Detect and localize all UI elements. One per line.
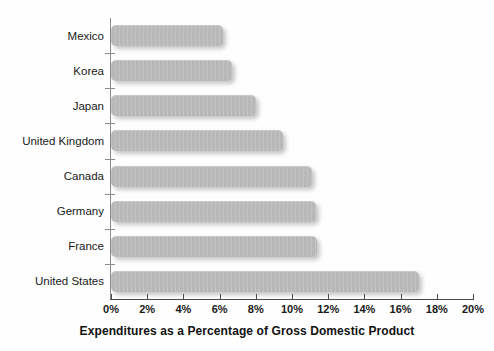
y-tick-mark <box>105 53 115 54</box>
y-tick-mark <box>105 123 115 124</box>
x-tick-mark <box>401 294 402 300</box>
x-tick-label: 2% <box>127 303 167 315</box>
x-tick-label: 18% <box>417 303 457 315</box>
x-tick-mark <box>147 294 148 300</box>
y-tick-mark <box>105 194 115 195</box>
x-tick-label: 12% <box>308 303 348 315</box>
value-axis-ticks: 0%2%4%6%8%10%12%14%16%18%20% <box>0 0 494 351</box>
x-tick-label: 8% <box>236 303 276 315</box>
x-axis-title: Expenditures as a Percentage of Gross Do… <box>0 324 494 338</box>
x-tick-mark <box>364 294 365 300</box>
x-tick-label: 10% <box>272 303 312 315</box>
x-tick-label: 4% <box>163 303 203 315</box>
y-tick-mark <box>105 264 115 265</box>
y-tick-mark <box>105 159 115 160</box>
x-tick-label: 0% <box>91 303 131 315</box>
y-tick-mark <box>105 229 115 230</box>
x-tick-mark <box>292 294 293 300</box>
x-tick-label: 20% <box>453 303 493 315</box>
bar-chart: MexicoKoreaJapanUnited KingdomCanadaGerm… <box>0 0 494 351</box>
x-tick-label: 16% <box>381 303 421 315</box>
x-tick-mark <box>220 294 221 300</box>
x-tick-label: 14% <box>344 303 384 315</box>
x-tick-mark <box>328 294 329 300</box>
x-tick-mark <box>111 294 112 300</box>
x-tick-mark <box>256 294 257 300</box>
x-tick-mark <box>437 294 438 300</box>
x-tick-mark <box>473 294 474 300</box>
x-tick-mark <box>183 294 184 300</box>
x-tick-label: 6% <box>200 303 240 315</box>
y-tick-mark <box>105 88 115 89</box>
